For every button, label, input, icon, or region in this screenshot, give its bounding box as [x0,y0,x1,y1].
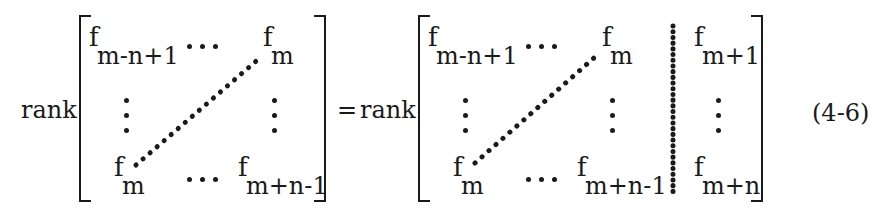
equation-number: (4-6) [812,99,869,127]
rhs-diagonal-dots [475,57,595,163]
dotted-lines-layer [0,0,886,213]
lhs-diagonal-dots [136,56,262,165]
